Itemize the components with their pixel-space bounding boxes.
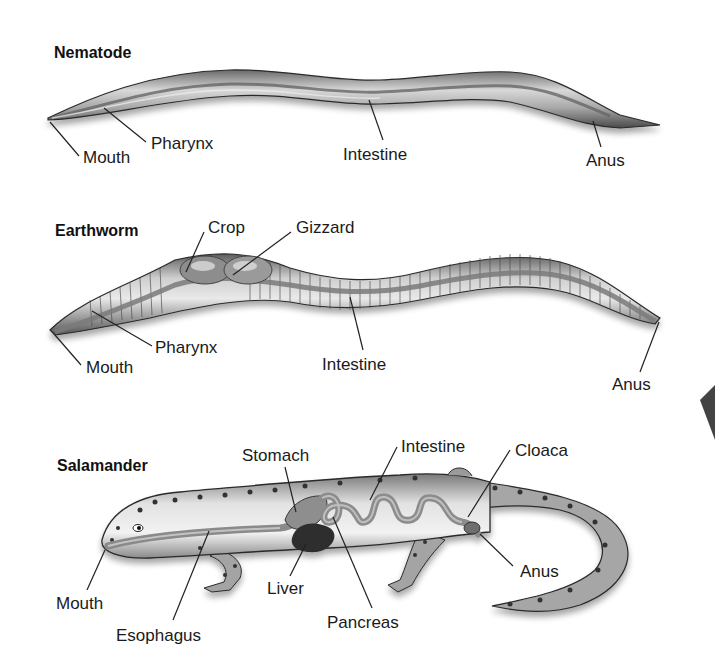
salamander-label-intestine: Intestine <box>401 438 465 455</box>
nematode-label-mouth: Mouth <box>83 149 130 166</box>
salamander-label-mouth: Mouth <box>56 595 103 612</box>
nematode-title: Nematode <box>54 45 131 61</box>
earthworm-label-crop: Crop <box>208 219 245 236</box>
salamander-title: Salamander <box>57 458 148 474</box>
earthworm-label-gizzard: Gizzard <box>296 219 355 236</box>
illustrations <box>0 0 715 667</box>
salamander-label-anus: Anus <box>520 563 559 580</box>
salamander-label-stomach: Stomach <box>242 447 309 464</box>
salamander-label-cloaca: Cloaca <box>515 442 568 459</box>
nematode-label-anus: Anus <box>586 152 625 169</box>
nematode-label-pharynx: Pharynx <box>151 135 213 152</box>
earthworm-illustration <box>50 254 660 335</box>
digestive-systems-diagram: Nematode Earthworm Salamander Mouth Phar… <box>0 0 715 667</box>
earthworm-label-anus: Anus <box>612 376 651 393</box>
salamander-label-pancreas: Pancreas <box>327 614 399 631</box>
salamander-label-liver: Liver <box>267 580 304 597</box>
earthworm-title: Earthworm <box>55 223 139 239</box>
earthworm-label-intestine: Intestine <box>322 356 386 373</box>
earthworm-label-pharynx: Pharynx <box>155 339 217 356</box>
nematode-label-intestine: Intestine <box>343 146 407 163</box>
salamander-label-esophagus: Esophagus <box>116 627 201 644</box>
edge-shadow-object <box>700 385 715 440</box>
nematode-illustration <box>48 70 660 128</box>
earthworm-label-mouth: Mouth <box>86 359 133 376</box>
